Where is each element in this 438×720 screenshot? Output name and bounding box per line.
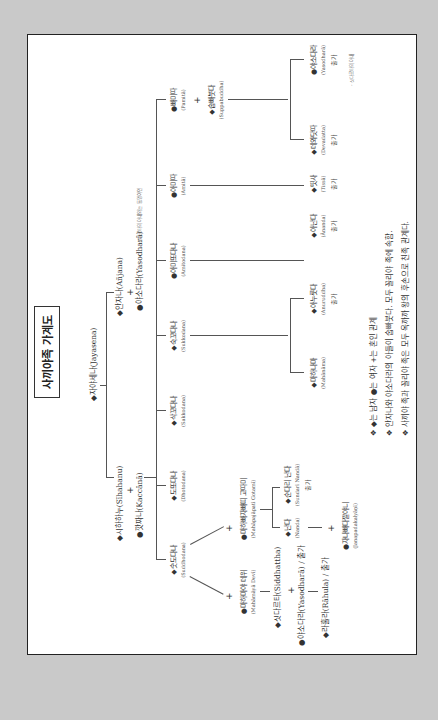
connector: [290, 60, 291, 140]
connector: [156, 559, 166, 560]
node-sihahanu: ◆시하하누(Sīhahanu): [116, 466, 124, 541]
node-amitodana: ●아미또다나(Amitodana): [168, 238, 186, 284]
connector: [272, 488, 273, 528]
node-anjana: ◆안자나(Añjana): [116, 257, 124, 316]
node-sukkodana: ◆숙꼬다나(Sukkodana): [168, 316, 186, 356]
node-rahula: ◆라훌라(Rāhula) / 출가: [322, 557, 330, 638]
connector: [290, 298, 304, 299]
connector: [190, 260, 304, 261]
marriage-plus: +: [192, 96, 202, 104]
connector: [144, 477, 156, 478]
node-suddhodana: ◆숫도다나(Suddhodana): [168, 540, 186, 580]
node-amita: ●아미따(Amitā): [168, 166, 186, 206]
marriage-plus: +: [125, 288, 135, 296]
connector: [260, 509, 272, 510]
connector: [272, 527, 280, 528]
connector: [106, 293, 107, 478]
connector: [190, 185, 304, 186]
legend-item: ❖ 안자나와 야소다라의 아들이 숩빠붓다. 모두 꼴리야 족에 속함.: [382, 221, 398, 436]
node-suppabuddha: ◆숩빠붓다(Suppabuddha): [206, 72, 224, 128]
node-mahanama: ◆마하나마(Mahānāma): [308, 350, 326, 396]
node-devadatta: ◆데와닷따(Devadatta)출가: [308, 117, 338, 163]
marriage-plus: +: [326, 524, 336, 532]
connector: [290, 139, 304, 140]
node-anuruddha: ◆아누룻다(Anuruddha)출가: [308, 276, 338, 322]
page-title: 사끼야족 가계도: [34, 306, 60, 398]
note-siddhattha-wife: - 싯다르타의 아내: [350, 54, 355, 86]
connector: [290, 59, 304, 60]
connector: [190, 526, 224, 545]
connector: [190, 576, 224, 595]
node-nanda: ◆난다(Nanda): [282, 512, 300, 544]
node-pamita: ●빠미따(Pamitā): [168, 80, 186, 120]
node-yasodhara: ●야소다라(Yasodharā)출가: [308, 38, 338, 82]
connector: [190, 335, 288, 336]
legend: ❖ ◆는 남자 ●는 여자 +는 혼인 관계 ❖ 안자나와 야소다라의 아들이 …: [366, 221, 414, 436]
connector: [156, 100, 157, 560]
marriage-plus: +: [125, 486, 135, 494]
connector: [156, 335, 166, 336]
node-mahamaya: ●마하마야 데위(Mahāmāyā Devī): [238, 564, 256, 620]
connector: [156, 485, 166, 486]
node-yasodhara-wife: ●야소다라(Yasodharā) / 출가: [298, 545, 306, 646]
node-tissa: ◆띳사(Tissā)출가: [308, 164, 338, 204]
connector: [290, 299, 291, 373]
legend-item: ❖ 사끼야 족과 꼴리야 족은 모두 옥까까 왕의 후손으로 친족 관계다.: [398, 221, 414, 436]
node-kaccana: ●깟짜나(Kaccānā): [136, 472, 144, 538]
connector: [228, 99, 288, 100]
connector: [260, 591, 270, 592]
connector: [106, 477, 114, 478]
connector: [290, 372, 304, 373]
connector: [272, 487, 280, 488]
marriage-plus: +: [224, 524, 234, 532]
connector: [156, 99, 166, 100]
node-ananda: ◆아난다(Ānanda)출가: [308, 206, 338, 246]
marriage-plus: +: [286, 586, 296, 594]
connector: [156, 410, 166, 411]
node-siddhattha: ◆싯다르타(Siddhattha): [274, 547, 282, 628]
node-jayasena: ◆자야세나(Jayasena): [90, 328, 98, 401]
node-sakkodana: ◆삭꼬다나(Sakkodana): [168, 391, 186, 431]
document-frame: 사끼야족 가계도 ◆자야세나(Jayasena) ◆시하하누(Sīhahanu)…: [27, 34, 417, 655]
connector: [308, 591, 318, 592]
marriage-plus: +: [224, 592, 234, 600]
connector: [156, 260, 166, 261]
connector: [106, 292, 114, 293]
node-janapada: ●자나빠다깔야니(Janapadakalyāṇī): [340, 496, 358, 556]
legend-item: ❖ ◆는 남자 ●는 여자 +는 혼인 관계: [366, 221, 382, 436]
node-sundari-nanda: ◆순다리 난다(Sundarī Nandā)출가: [282, 460, 312, 510]
connector: [156, 185, 166, 186]
connector: [308, 527, 322, 528]
node-pajapati: ●마하빠자빠띠 고따미(Mahāpajāpatī Gotamī): [238, 467, 256, 551]
node-dhotodana: ◆도또다나(Dhotodana): [168, 466, 186, 506]
family-tree-canvas: 사끼야족 가계도 ◆자야세나(Jayasena) ◆시하하누(Sīhahanu)…: [28, 35, 417, 655]
note-namesake: - 싯다르타의 아내와는 동명이인: [138, 188, 143, 246]
